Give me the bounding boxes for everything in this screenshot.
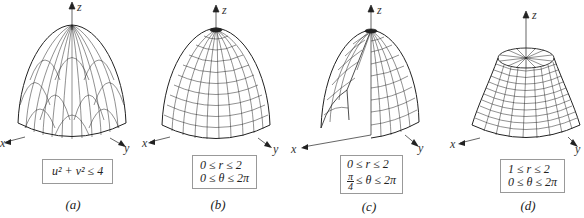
y-axis-label: y [124, 141, 129, 156]
caption: (a) [53, 197, 93, 213]
domain-box: u² + v² ≤ 4 [42, 159, 113, 184]
domain-line: 0 ≤ θ ≤ 2π [200, 172, 249, 185]
domain-line: ≤ θ ≤ 2π [356, 173, 396, 187]
z-axis-label: z [77, 0, 82, 15]
truncated-paraboloid-graphic [430, 0, 584, 160]
caption: (d) [508, 198, 548, 214]
y-axis-label: y [418, 141, 423, 156]
x-axis-label: x [450, 137, 455, 152]
paraboloid-rect-mesh-graphic [0, 0, 145, 160]
y-axis-label: y [273, 142, 278, 157]
domain-line: 0 ≤ θ ≤ 2π [508, 176, 557, 189]
caption: (b) [198, 197, 238, 213]
domain-box: 0 ≤ r ≤ 2 0 ≤ θ ≤ 2π [192, 155, 257, 189]
fraction-denominator: 4 [347, 182, 354, 191]
caption: (c) [349, 199, 389, 215]
paraboloid-cut-wedge-graphic [285, 0, 435, 160]
domain-line: u² + v² ≤ 4 [52, 164, 103, 178]
panel-c: z x y 0 ≤ r ≤ 2 π 4 ≤ θ ≤ 2π (c) [285, 0, 435, 218]
x-axis-label: x [0, 136, 5, 151]
y-axis-label: y [575, 142, 580, 157]
panel-a: z x y u² + v² ≤ 4 (a) [0, 0, 145, 218]
x-axis-label: x [142, 136, 147, 151]
panel-b: z x y 0 ≤ r ≤ 2 0 ≤ θ ≤ 2π (b) [140, 0, 290, 218]
z-axis-label: z [377, 3, 382, 18]
domain-box: 1 ≤ r ≤ 2 0 ≤ θ ≤ 2π [500, 159, 565, 193]
z-axis-label: z [222, 3, 227, 18]
x-axis-label: x [291, 142, 296, 157]
z-axis-label: z [532, 8, 537, 23]
domain-line: 0 ≤ r ≤ 2 [347, 158, 396, 171]
panel-d: z x y 1 ≤ r ≤ 2 0 ≤ θ ≤ 2π (d) [430, 0, 584, 218]
domain-box: 0 ≤ r ≤ 2 π 4 ≤ θ ≤ 2π [340, 155, 403, 194]
paraboloid-polar-mesh-graphic [140, 0, 290, 160]
fraction-pi-over-4: π 4 [347, 172, 354, 191]
